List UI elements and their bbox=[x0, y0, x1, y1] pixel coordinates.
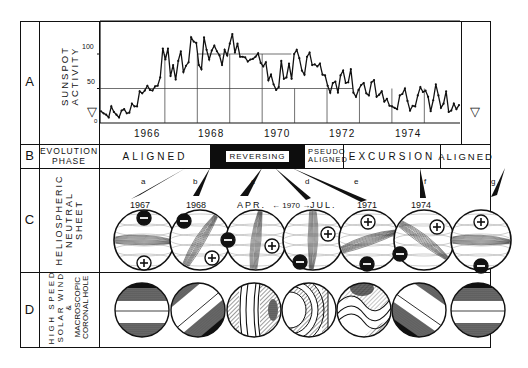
neutral-sheet-sphere bbox=[451, 210, 511, 273]
neutral-sheet-sphere bbox=[339, 210, 399, 271]
coronal-hole-sphere bbox=[227, 283, 287, 337]
neutral-sheet-sphere bbox=[221, 210, 286, 271]
coronal-hole-sphere bbox=[337, 280, 391, 337]
coronal-hole-sphere bbox=[115, 283, 169, 337]
neutral-sheet-sphere bbox=[283, 210, 343, 270]
figure-illustrations bbox=[0, 0, 528, 368]
neutral-sheet-sphere bbox=[393, 210, 454, 270]
coronal-hole-sphere bbox=[451, 283, 505, 337]
neutral-sheet-sphere bbox=[114, 210, 174, 270]
